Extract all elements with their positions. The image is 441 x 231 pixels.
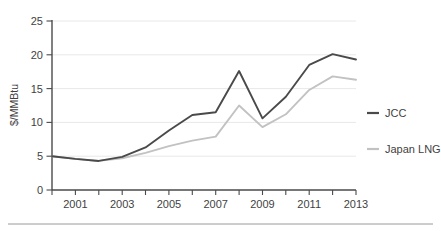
x-tick-label-2001: 2001 (63, 198, 87, 210)
legend: JCC Japan LNG (367, 107, 441, 155)
x-axis: 2001 2003 2005 2007 2009 2011 2013 (52, 190, 368, 210)
x-tick-label-2005: 2005 (157, 198, 181, 210)
y-axis-title: $/MMBtu (8, 84, 20, 126)
y-tick-label-0: 0 (37, 184, 43, 196)
x-tick-label-2011: 2011 (297, 198, 321, 210)
y-tick-label-10: 10 (31, 116, 43, 128)
legend-label-japan-lng: Japan LNG (385, 143, 441, 155)
y-tick-label-20: 20 (31, 49, 43, 61)
series-paths (52, 54, 356, 161)
y-axis: 25 20 15 10 5 0 $/MMBtu (8, 15, 52, 196)
x-tick-label-2009: 2009 (250, 198, 274, 210)
y-tick-label-5: 5 (37, 150, 43, 162)
x-tick-label-2003: 2003 (110, 198, 134, 210)
y-tick-label-25: 25 (31, 15, 43, 27)
legend-label-jcc: JCC (385, 107, 406, 119)
y-tick-label-15: 15 (31, 83, 43, 95)
series-line-jcc (52, 54, 356, 161)
series-line-japan-lng (52, 76, 356, 160)
chart-figure: 25 20 15 10 5 0 $/MMBtu 2001 2003 (0, 0, 441, 231)
x-tick-label-2007: 2007 (203, 198, 227, 210)
line-chart: 25 20 15 10 5 0 $/MMBtu 2001 2003 (0, 0, 441, 231)
x-tick-label-2013: 2013 (344, 198, 368, 210)
